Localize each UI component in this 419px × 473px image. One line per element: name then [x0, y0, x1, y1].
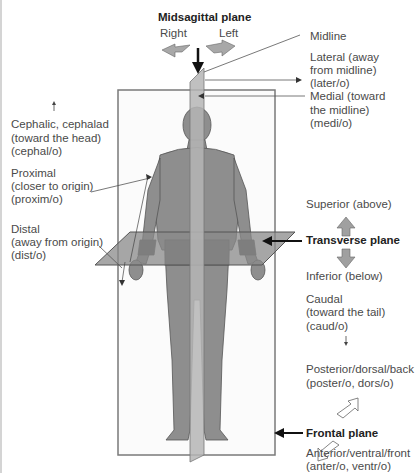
distal-label-1: Distal	[11, 223, 40, 237]
posterior-label-2: (poster/o, dors/o)	[306, 377, 394, 391]
arrow-left-direction-icon	[206, 40, 235, 56]
anterior-label-2: (anter/o, ventr/o)	[306, 460, 391, 473]
cephalic-label-3: (cephal/o)	[11, 145, 62, 159]
lateral-label-1: Lateral (away	[310, 51, 379, 65]
inferior-label: Inferior (below)	[306, 270, 383, 284]
midsagittal-plane-label: Midsagittal plane	[158, 11, 251, 25]
left-label: Left	[219, 27, 238, 41]
medial-label-3: (medi/o)	[310, 117, 352, 131]
anterior-label-1: Anterior/ventral/front	[306, 447, 410, 461]
caudal-label-1: Caudal	[306, 293, 342, 307]
frontal-plane-label: Frontal plane	[306, 427, 378, 441]
caudal-label-3: (caud/o)	[306, 320, 348, 334]
midsagittal-plane	[190, 68, 204, 462]
inferior-arrow-icon	[337, 249, 355, 268]
transverse-plane-label: Transverse plane	[306, 234, 400, 248]
lateral-label-3: (later/o)	[310, 77, 350, 91]
caudal-label-2: (toward the tail)	[306, 306, 385, 320]
proximal-label-2: (closer to origin)	[11, 180, 93, 194]
distal-label-3: (dist/o)	[11, 249, 46, 263]
midline-label: Midline	[310, 30, 346, 44]
medial-label-2: the midline)	[310, 104, 369, 118]
cephalic-label-1: Cephalic, cephalad	[11, 118, 109, 132]
proximal-label-1: Proximal	[11, 167, 56, 181]
posterior-arrow-icon	[337, 398, 358, 418]
lateral-label-2: from midline)	[310, 64, 376, 78]
proximal-label-3: (proxim/o)	[11, 193, 63, 207]
distal-label-2: (away from origin)	[11, 236, 103, 250]
right-label: Right	[160, 27, 187, 41]
cephalic-label-2: (toward the head)	[11, 132, 101, 146]
superior-label: Superior (above)	[306, 198, 392, 212]
posterior-label-1: Posterior/dorsal/back	[306, 363, 414, 377]
medial-label-1: Medial (toward	[310, 90, 385, 104]
arrow-right-direction-icon	[162, 44, 190, 57]
